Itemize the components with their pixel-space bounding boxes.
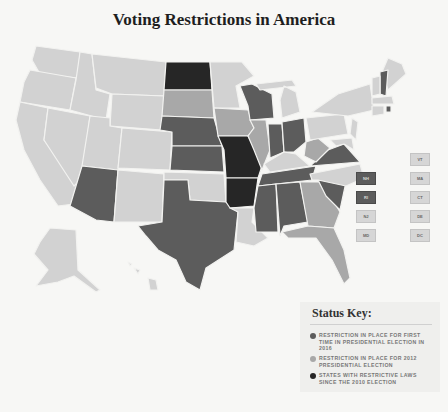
state-ar[interactable] xyxy=(226,178,258,208)
divider xyxy=(310,324,432,325)
key-item-2012: RESTRICTION IN PLACE FOR 2012 PRESIDENTI… xyxy=(310,355,435,368)
status-key: Status Key: RESTRICTION IN PLACE FOR FIR… xyxy=(300,302,440,392)
state-ct[interactable] xyxy=(372,106,384,116)
key-item-first-time-2016: RESTRICTION IN PLACE FOR FIRST TIME IN P… xyxy=(310,332,435,352)
state-nh[interactable] xyxy=(380,70,388,96)
state-mt[interactable] xyxy=(92,54,166,96)
state-nm[interactable] xyxy=(114,170,164,222)
state-ak[interactable] xyxy=(34,228,100,292)
state-hi[interactable] xyxy=(128,262,158,290)
state-oh[interactable] xyxy=(282,118,306,152)
small-state-md[interactable]: MD xyxy=(356,229,376,242)
state-fl[interactable] xyxy=(282,226,350,284)
dot-icon xyxy=(310,373,316,379)
small-state-dc[interactable]: DC xyxy=(410,229,430,242)
state-ks[interactable] xyxy=(170,146,224,172)
state-sd[interactable] xyxy=(162,90,214,118)
state-co[interactable] xyxy=(118,128,172,170)
small-state-nh[interactable]: NH xyxy=(356,172,376,185)
small-state-ct[interactable]: CT xyxy=(410,191,430,204)
status-key-heading: Status Key: xyxy=(312,306,372,321)
state-ny[interactable] xyxy=(312,84,374,116)
small-state-ri[interactable]: RI xyxy=(356,191,376,204)
state-ma[interactable] xyxy=(372,96,394,104)
small-state-de[interactable]: DE xyxy=(410,210,430,223)
key-item-since-2010: STATES WITH RESTRICTIVE LAWS SINCE THE 2… xyxy=(310,372,435,385)
small-state-nj[interactable]: NJ xyxy=(356,210,376,223)
dot-icon xyxy=(310,333,316,339)
state-ia[interactable] xyxy=(214,108,254,136)
state-nd[interactable] xyxy=(164,62,212,90)
state-wy[interactable] xyxy=(110,94,164,130)
small-state-vt[interactable]: VT xyxy=(410,153,430,166)
state-nj[interactable] xyxy=(350,118,358,140)
state-pa[interactable] xyxy=(306,114,348,140)
small-state-ma[interactable]: MA xyxy=(410,172,430,185)
state-vt[interactable] xyxy=(372,76,380,96)
state-ms[interactable] xyxy=(254,184,278,232)
dot-icon xyxy=(310,356,316,362)
state-ri[interactable] xyxy=(386,106,391,112)
